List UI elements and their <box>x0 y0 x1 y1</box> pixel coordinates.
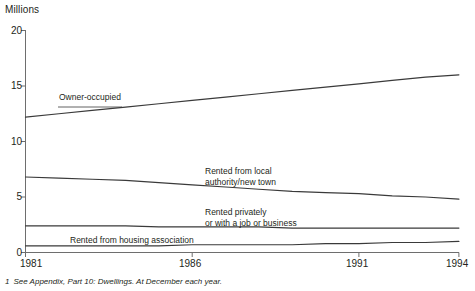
y-tick-label-15: 15 <box>0 80 22 91</box>
series-label-rented-local-authority: Rented from local authority/new town <box>205 166 276 187</box>
y-tick-label-5: 5 <box>0 191 22 202</box>
y-tick-label-0: 0 <box>0 247 22 258</box>
x-tick-label-1981: 1981 <box>20 258 42 269</box>
footnote-text: See Appendix, Part 10: Dwellings. At Dec… <box>13 277 222 286</box>
x-tick-label-1991: 1991 <box>346 258 368 269</box>
x-tick-label-1986: 1986 <box>179 258 201 269</box>
chart-plot-area <box>0 0 475 291</box>
x-axis <box>26 253 460 258</box>
series-label-rented-privately: Rented privately or with a job or busine… <box>205 207 297 228</box>
footnote-number: 1 <box>5 277 9 286</box>
footnote: 1See Appendix, Part 10: Dwellings. At De… <box>5 277 222 286</box>
series-label-rented-local-authority-line2: authority/new town <box>205 177 276 188</box>
y-tick-label-10: 10 <box>0 136 22 147</box>
series-label-rented-privately-line1: Rented privately <box>205 207 297 218</box>
series-label-owner-occupied: Owner-occupied <box>59 92 121 103</box>
series-label-rented-privately-line2: or with a job or business <box>205 218 297 229</box>
chart-container: Millions 20 15 10 5 0 1981 <box>0 0 475 291</box>
series-label-rented-housing-association: Rented from housing association <box>70 235 194 246</box>
series-label-rented-local-authority-line1: Rented from local <box>205 166 276 177</box>
x-tick-label-1994: 1994 <box>446 258 468 269</box>
y-tick-label-20: 20 <box>0 25 22 36</box>
